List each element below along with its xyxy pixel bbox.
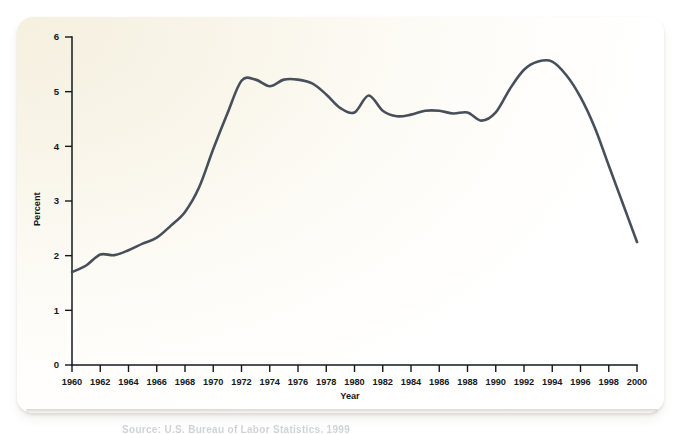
x-axis-title: Year bbox=[340, 391, 360, 401]
x-tick-label: 1968 bbox=[175, 377, 195, 387]
y-tick-label: 1 bbox=[54, 305, 60, 316]
y-tick-label: 2 bbox=[54, 250, 59, 261]
y-axis-title: Percent bbox=[32, 192, 42, 226]
x-tick-label: 1974 bbox=[260, 377, 281, 387]
x-tick-label: 1966 bbox=[147, 377, 167, 387]
x-tick-label: 1998 bbox=[599, 377, 619, 387]
x-tick-label: 1984 bbox=[401, 377, 422, 387]
x-tick-label: 1986 bbox=[429, 377, 449, 387]
y-tick-label: 3 bbox=[54, 195, 59, 206]
x-tick-label: 1960 bbox=[62, 377, 82, 387]
line-chart: 0123456 19601962196419661968197019721974… bbox=[0, 0, 688, 434]
x-tick-label: 1996 bbox=[570, 377, 590, 387]
x-tick-label: 1976 bbox=[288, 377, 308, 387]
x-tick-label: 1964 bbox=[118, 377, 139, 387]
x-tick-label: 1994 bbox=[542, 377, 563, 387]
x-tick-label: 1988 bbox=[457, 377, 477, 387]
x-tick-label: 1970 bbox=[203, 377, 223, 387]
x-tick-label: 1972 bbox=[231, 377, 251, 387]
y-tick-label: 5 bbox=[54, 86, 60, 97]
chart-canvas: 0123456 19601962196419661968197019721974… bbox=[0, 0, 688, 434]
x-axis: 1960196219641966196819701972197419761978… bbox=[62, 365, 647, 387]
axis-titles: YearPercent bbox=[32, 192, 360, 401]
y-axis: 0123456 bbox=[54, 31, 72, 370]
x-tick-label: 2000 bbox=[627, 377, 647, 387]
x-tick-label: 1978 bbox=[316, 377, 336, 387]
x-tick-label: 1982 bbox=[373, 377, 393, 387]
x-tick-label: 1980 bbox=[344, 377, 364, 387]
x-tick-label: 1990 bbox=[486, 377, 506, 387]
series-line-percent bbox=[72, 60, 637, 272]
x-tick-label: 1962 bbox=[90, 377, 110, 387]
y-tick-label: 0 bbox=[54, 359, 59, 370]
y-tick-label: 6 bbox=[54, 31, 59, 42]
x-tick-label: 1992 bbox=[514, 377, 534, 387]
data-series-group bbox=[72, 60, 637, 272]
y-tick-label: 4 bbox=[54, 141, 60, 152]
